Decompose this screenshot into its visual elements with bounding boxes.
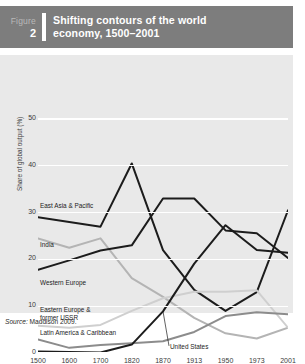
- gridline-0: [38, 352, 288, 353]
- header-divider-rule: [42, 13, 46, 41]
- series-label-united-states: United States: [170, 343, 208, 351]
- source-text: Maddison 2009.: [30, 318, 77, 325]
- gridline-50: [38, 118, 288, 119]
- chart-canvas: Share of global output (%) 01020304050 1…: [0, 55, 293, 313]
- gridline-30: [38, 212, 288, 213]
- y-tick-0: 0: [16, 348, 36, 355]
- gridline-40: [38, 165, 288, 166]
- y-tick-30: 30: [16, 208, 36, 215]
- source-note: Source: Maddison 2009.: [5, 318, 77, 325]
- y-tick-50: 50: [16, 114, 36, 121]
- y-tick-20: 20: [16, 254, 36, 261]
- y-tick-40: 40: [16, 161, 36, 168]
- x-tick-1600: 1600: [52, 357, 86, 364]
- x-tick-1700: 1700: [84, 357, 118, 364]
- figure-number: 2: [30, 27, 36, 39]
- y-tick-10: 10: [16, 301, 36, 308]
- figure-number-block: Figure 2: [0, 16, 42, 39]
- series-label-latin-america-caribbean: Latin America & Caribbean: [40, 329, 116, 337]
- series-label-east-asia-pacific: East Asia & Pacific: [40, 202, 93, 210]
- series-line-east-asia-pacific: [38, 163, 288, 310]
- series-label-western-europe: Western Europe: [40, 279, 86, 287]
- x-tick-2001: 2001: [271, 357, 305, 364]
- x-tick-1973: 1973: [240, 357, 274, 364]
- figure-title-line-2: economy, 1500–2001: [53, 27, 207, 40]
- figure-title: Shifting contours of the world economy, …: [53, 14, 207, 40]
- source-prefix: Source:: [5, 318, 28, 325]
- series-label-india: India: [40, 241, 54, 249]
- figure-header: Figure 2 Shifting contours of the world …: [0, 6, 293, 48]
- x-tick-1870: 1870: [146, 357, 180, 364]
- x-tick-1950: 1950: [209, 357, 243, 364]
- figure-word-label: Figure: [11, 16, 36, 27]
- x-tick-1820: 1820: [115, 357, 149, 364]
- y-axis-title: Share of global output (%): [16, 71, 23, 191]
- figure-title-line-1: Shifting contours of the world: [53, 14, 207, 27]
- x-tick-1913: 1913: [177, 357, 211, 364]
- x-tick-1500: 1500: [21, 357, 55, 364]
- gridline-20: [38, 259, 288, 260]
